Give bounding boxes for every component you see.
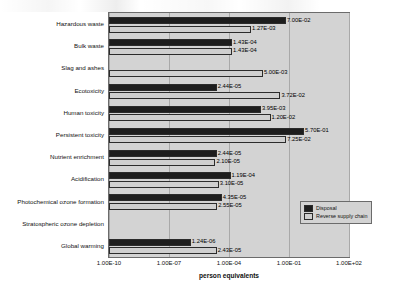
bar-value-label: 1.43E-04 [233, 40, 257, 46]
bar-value-label: 3.72E-02 [281, 93, 305, 99]
category-label: Slag and ashes [61, 65, 104, 71]
legend-swatch-reverse-supply-chain [304, 213, 313, 220]
category-row: Persistent toxicity5.70E-017.25E-02 [109, 124, 349, 146]
category-label: Bulk waste [74, 43, 104, 49]
legend-label-disposal: Disposal [316, 206, 337, 211]
bar-value-label: 2.55E-05 [218, 204, 242, 210]
legend-item-disposal: Disposal [304, 205, 368, 212]
bar-value-label: 1.19E-04 [232, 173, 256, 179]
category-label: Photochemical ozone formation [17, 198, 104, 204]
category-label: Stratospheric ozone depletion [22, 221, 104, 227]
bar-value-label: 4.35E-05 [223, 195, 247, 201]
bar-value-label: 2.44E-05 [218, 84, 242, 90]
category-row: Bulk waste1.43E-041.43E-04 [109, 35, 349, 57]
chart-legend: Disposal Reverse supply chain [300, 201, 372, 224]
category-row: Hazardous waste7.00E-021.27E-03 [109, 13, 349, 35]
bar-value-label: 5.70E-01 [305, 129, 329, 135]
bar-reverse-supply-chain: 2.10E-05 [109, 159, 215, 166]
bar-value-label: 2.44E-05 [218, 151, 242, 157]
bar-value-label: 3.10E-05 [220, 181, 244, 187]
bar-reverse-supply-chain: 7.25E-02 [109, 136, 286, 143]
bar-value-label: 1.20E-02 [272, 115, 296, 121]
bar-value-label: 1.43E-04 [233, 48, 257, 54]
bar-reverse-supply-chain: 1.43E-04 [109, 48, 232, 55]
bar-reverse-supply-chain: 1.27E-03 [109, 26, 251, 33]
bar-value-label: 3.95E-03 [262, 106, 286, 112]
x-axis-tick-label: 1.00E-07 [157, 260, 181, 266]
legend-swatch-disposal [304, 205, 313, 212]
bar-value-label: 2.43E-05 [218, 248, 242, 254]
category-row: Ecotoxicity2.44E-053.72E-02 [109, 80, 349, 102]
bar-disposal: 3.95E-03 [109, 106, 261, 113]
bar-reverse-supply-chain: 2.55E-05 [109, 203, 217, 210]
category-row: Human toxicity3.95E-031.20E-02 [109, 102, 349, 124]
category-row: Slag and ashes5.00E-03 [109, 57, 349, 79]
bar-reverse-supply-chain: 3.72E-02 [109, 92, 280, 99]
category-row: Global warming1.24E-062.43E-05 [109, 235, 349, 257]
x-axis-tick-label: 1.00E-10 [97, 260, 121, 266]
category-label: Persistent toxicity [56, 132, 104, 138]
bar-value-label: 7.00E-02 [287, 18, 311, 24]
bar-reverse-supply-chain: 5.00E-03 [109, 70, 263, 77]
bar-value-label: 5.00E-03 [264, 70, 288, 76]
bar-reverse-supply-chain: 2.43E-05 [109, 247, 217, 254]
category-label: Hazardous waste [56, 21, 104, 27]
bar-disposal: 4.35E-05 [109, 194, 222, 201]
bar-value-label: 7.25E-02 [287, 137, 311, 143]
bar-disposal: 1.24E-06 [109, 239, 191, 246]
legend-label-reverse-supply-chain: Reverse supply chain [316, 214, 368, 219]
x-axis: 1.00E-101.00E-071.00E-041.00E-011.00E+02 [108, 258, 350, 272]
category-label: Acidification [71, 176, 104, 182]
bar-reverse-supply-chain: 1.20E-02 [109, 114, 271, 121]
bar-disposal: 1.43E-04 [109, 39, 232, 46]
category-label: Human toxicity [63, 110, 104, 116]
legend-item-reverse-supply-chain: Reverse supply chain [304, 213, 368, 220]
category-row: Nutrient enrichment2.44E-052.10E-05 [109, 146, 349, 168]
bar-disposal: 1.19E-04 [109, 172, 231, 179]
bar-value-label: 2.10E-05 [216, 159, 240, 165]
bar-value-label: 1.24E-06 [192, 239, 216, 245]
category-label: Nutrient enrichment [50, 154, 104, 160]
bar-disposal: 7.00E-02 [109, 17, 286, 24]
category-label: Ecotoxicity [74, 88, 104, 94]
bar-value-label: 1.27E-03 [252, 26, 276, 32]
bar-disposal: 5.70E-01 [109, 128, 304, 135]
x-axis-tick-label: 1.00E-04 [217, 260, 241, 266]
bar-chart-figure: Hazardous waste7.00E-021.27E-03Bulk wast… [0, 0, 400, 299]
category-label: Global warming [61, 243, 104, 249]
x-axis-tick-label: 1.00E-01 [277, 260, 301, 266]
bar-disposal: 2.44E-05 [109, 84, 217, 91]
bar-reverse-supply-chain: 3.10E-05 [109, 181, 219, 188]
bar-disposal: 2.44E-05 [109, 150, 217, 157]
x-axis-title: person equivalents [108, 272, 350, 279]
category-row: Acidification1.19E-043.10E-05 [109, 168, 349, 190]
x-axis-tick-label: 1.00E+02 [336, 260, 362, 266]
